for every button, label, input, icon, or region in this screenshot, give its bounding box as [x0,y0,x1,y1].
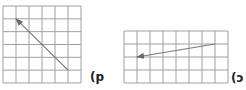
figure-label-right: (ɔ [231,72,244,84]
grid-left [3,6,81,83]
grid-right [124,31,228,83]
figure-label-left: (p [90,71,104,83]
diagram-canvas [0,0,246,90]
